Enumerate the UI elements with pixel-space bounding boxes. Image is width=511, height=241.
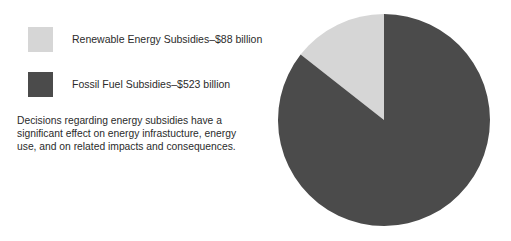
pie-slice-group [278,14,490,226]
pie-chart-svg [276,12,492,228]
legend-swatch-fossil-icon [28,72,53,97]
legend-label-fossil: Fossil Fuel Subsidies–$523 billion [72,78,230,91]
chart-legend: Renewable Energy Subsidies–$88 billion F… [28,27,268,117]
caption-line-1: Decisions regarding energy subsidies hav… [17,115,262,128]
caption-text: Decisions regarding energy subsidies hav… [17,115,262,153]
caption-line-2: significant effect on energy infrastuctu… [17,128,262,141]
energy-subsidies-figure: Renewable Energy Subsidies–$88 billion F… [0,0,511,241]
legend-swatch-renewable-icon [28,27,53,52]
legend-label-renewable: Renewable Energy Subsidies–$88 billion [72,33,262,46]
legend-item-fossil: Fossil Fuel Subsidies–$523 billion [28,72,268,97]
caption-line-3: use, and on related impacts and conseque… [17,141,262,154]
legend-item-renewable: Renewable Energy Subsidies–$88 billion [28,27,268,52]
pie-chart [276,12,492,228]
